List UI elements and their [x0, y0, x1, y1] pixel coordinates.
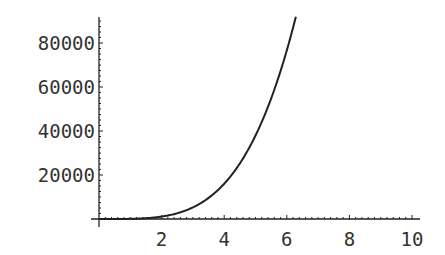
- y-tick-label: 80000: [38, 32, 95, 54]
- x-tick-label: 6: [281, 228, 292, 250]
- x-tick-label: 4: [218, 228, 229, 250]
- y-tick-label: 20000: [38, 164, 95, 186]
- x-tick-label: 10: [401, 228, 424, 250]
- x-tick-label: 8: [344, 228, 355, 250]
- axes: [91, 17, 420, 227]
- data-curve: [99, 17, 296, 219]
- y-tick-label: 40000: [38, 120, 95, 142]
- x-tick-label: 2: [156, 228, 167, 250]
- chart: 24681020000400006000080000: [0, 0, 445, 255]
- y-tick-label: 60000: [38, 76, 95, 98]
